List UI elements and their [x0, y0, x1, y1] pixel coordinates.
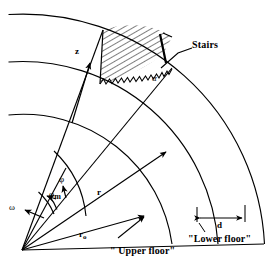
- phi-label: φ: [59, 175, 64, 184]
- figure-root: Stairs α z ω φ φm r ro d " Upper floor" …: [0, 0, 278, 268]
- lower-floor-pointer-line: [199, 223, 205, 232]
- lower-floor-label: "Lower floor": [188, 234, 251, 244]
- radial-stairs-right: [22, 68, 172, 250]
- stairs-hatch-fill: [100, 25, 172, 84]
- z-axis-label: z: [75, 47, 79, 56]
- r-o-label: ro: [79, 230, 87, 241]
- phi-arrow-line: [63, 186, 66, 198]
- phi-arrow: [63, 186, 66, 198]
- upper-floor-arc: [9, 114, 173, 244]
- radial-upper-edge: [22, 30, 103, 250]
- r-arrow-line: [22, 152, 166, 250]
- omega-label: ω: [9, 203, 15, 212]
- stairs-label: Stairs: [192, 40, 218, 50]
- z-axis-line: [72, 63, 90, 123]
- figure-canvas: [0, 0, 278, 268]
- stairs-wedge: [100, 25, 172, 84]
- z-axis-arrow: [72, 63, 90, 123]
- r-arrow: [22, 152, 166, 250]
- phi-m-label: φm: [49, 190, 61, 201]
- upper-floor-label: " Upper floor": [110, 246, 175, 256]
- r-o-subscript: o: [83, 233, 87, 241]
- d-label: d: [217, 221, 222, 230]
- alpha-label: α: [152, 74, 157, 83]
- r-label: r: [97, 188, 101, 197]
- lower-floor-pointer: [199, 223, 205, 232]
- phi-m-subscript: m: [54, 192, 61, 201]
